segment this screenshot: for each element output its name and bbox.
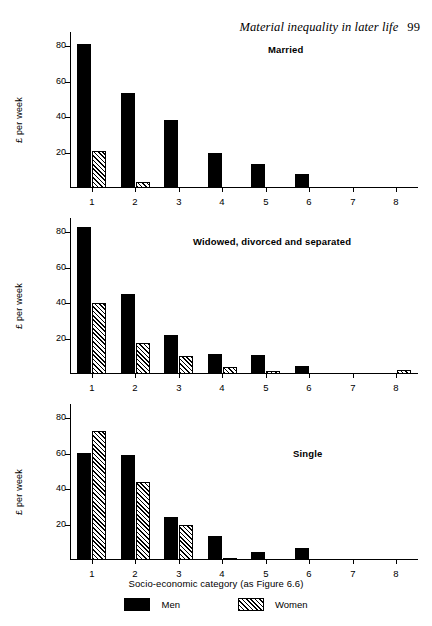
y-tick-label: 20 [36,334,66,343]
bar-men-category-4 [208,153,222,188]
x-tick [179,560,180,564]
men-swatch-icon [124,598,150,611]
x-tick-label: 1 [80,383,104,393]
x-tick [309,560,310,564]
bar-women-category-3 [179,525,193,560]
x-tick [135,188,136,192]
y-axis-label: £ per week [14,80,24,160]
bar-men-category-3 [164,120,178,188]
x-tick [353,560,354,564]
x-tick [353,188,354,192]
bar-women-category-2 [136,182,150,188]
women-swatch-icon [238,598,264,611]
bar-men-category-6 [295,174,309,188]
bar-men-category-6 [295,366,309,374]
x-tick [222,560,223,564]
x-tick [396,560,397,564]
x-tick [309,374,310,378]
x-tick-label: 7 [341,197,365,207]
legend: Men Women [0,598,432,611]
x-tick-label: 8 [384,383,408,393]
legend-item-women: Women [238,598,308,611]
x-axis-label: Socio-economic category (as Figure 6.6) [0,578,432,589]
y-tick-label: 60 [36,77,66,86]
y-tick-label: 80 [36,227,66,236]
x-tick [92,188,93,192]
x-tick [179,374,180,378]
y-tick-label: 60 [36,449,66,458]
y-tick-label: 40 [36,298,66,307]
x-tick [135,560,136,564]
x-tick-label: 6 [297,383,321,393]
x-tick [353,374,354,378]
bar-men-category-4 [208,536,222,560]
bar-men-category-5 [251,552,265,560]
y-tick-label: 20 [36,520,66,529]
bar-men-category-2 [121,93,135,188]
y-axis-line [70,32,71,188]
bar-women-category-2 [136,482,150,560]
bar-women-category-3 [179,356,193,374]
x-tick [266,560,267,564]
bar-women-category-5 [266,371,280,374]
x-tick-label: 4 [210,197,234,207]
plot-area-widowed: 2040608012345678 [70,218,418,374]
x-tick [222,188,223,192]
bar-women-category-1 [92,303,106,374]
y-tick-label: 60 [36,263,66,272]
y-tick-label: 80 [36,413,66,422]
bar-men-category-3 [164,335,178,374]
bar-men-category-5 [251,355,265,375]
bar-men-category-5 [251,164,265,188]
bar-women-category-4 [223,558,237,560]
bar-men-category-1 [77,44,91,188]
y-tick-label: 40 [36,112,66,121]
x-tick [396,188,397,192]
bar-men-category-4 [208,354,222,374]
y-axis-label: £ per week [14,452,24,532]
x-tick [222,374,223,378]
x-tick [179,188,180,192]
bar-women-category-1 [92,151,106,188]
bar-women-category-2 [136,343,150,374]
x-tick [396,374,397,378]
x-tick [309,188,310,192]
x-tick [92,374,93,378]
bar-men-category-2 [121,455,135,560]
y-axis-line [70,218,71,374]
y-tick-label: 20 [36,148,66,157]
x-tick [135,374,136,378]
bar-men-category-1 [77,453,91,560]
y-tick-label: 80 [36,41,66,50]
x-tick-label: 2 [123,383,147,393]
bar-women-category-1 [92,431,106,560]
x-tick [266,188,267,192]
y-axis-label: £ per week [14,266,24,346]
legend-item-men: Men [124,598,179,611]
legend-label-women: Women [275,599,308,610]
x-tick-label: 6 [297,197,321,207]
bar-men-category-3 [164,517,178,560]
chart-panel-widowed: Widowed, divorced and separated £ per we… [0,210,432,396]
plot-area-single: 2040608012345678 [70,404,418,560]
x-tick [92,560,93,564]
bar-women-category-8 [397,370,411,374]
y-axis-line [70,404,71,560]
x-tick-label: 8 [384,197,408,207]
x-tick-label: 3 [167,197,191,207]
x-tick-label: 5 [254,383,278,393]
legend-label-men: Men [161,599,179,610]
x-tick-label: 2 [123,197,147,207]
x-tick-label: 1 [80,197,104,207]
x-tick-label: 3 [167,383,191,393]
y-tick-label: 40 [36,484,66,493]
x-tick-label: 4 [210,383,234,393]
bar-men-category-6 [295,548,309,560]
bar-men-category-1 [77,227,91,374]
x-tick [266,374,267,378]
chart-panel-married: Married £ per week 2040608012345678 [0,24,432,210]
x-tick-label: 7 [341,383,365,393]
chart-panel-single: Single £ per week 2040608012345678 [0,396,432,582]
bar-men-category-2 [121,294,135,374]
plot-area-married: 2040608012345678 [70,32,418,188]
